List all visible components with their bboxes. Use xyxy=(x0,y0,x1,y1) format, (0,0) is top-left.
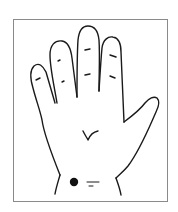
palm-crease xyxy=(83,131,98,140)
ring-finger-outline xyxy=(50,41,77,103)
crease-mark xyxy=(85,74,90,75)
middle-finger-outline xyxy=(77,26,99,97)
little-finger-outline xyxy=(31,64,60,175)
index-finger-outline xyxy=(99,37,124,122)
thumb-outline xyxy=(116,97,159,178)
wrist-line-left xyxy=(55,175,60,194)
crease-mark xyxy=(36,78,40,80)
crease-mark xyxy=(58,60,60,61)
crease-mark xyxy=(85,49,90,50)
acupressure-point-dot xyxy=(70,178,78,186)
crease-mark xyxy=(110,76,115,78)
crease-mark xyxy=(62,81,64,82)
hand-illustration xyxy=(0,0,178,212)
wrist-line-right xyxy=(116,178,121,195)
crease-mark xyxy=(110,55,116,57)
